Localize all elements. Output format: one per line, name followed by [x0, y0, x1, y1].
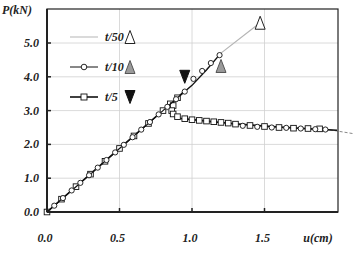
- series-t5-marker: [262, 124, 268, 130]
- legend-label-t-5: t/5: [105, 90, 118, 104]
- legend: t/50t/10t/5: [70, 30, 135, 104]
- series-t10-marker: [323, 127, 328, 132]
- axes: 0.01.02.03.04.05.00.00.51.01.5P(kN)u(cm): [2, 3, 338, 245]
- legend-t10-circle-icon: [81, 64, 87, 70]
- series-t5-marker: [218, 120, 224, 126]
- series-t10-marker: [95, 165, 100, 170]
- series-t10-marker: [284, 125, 289, 130]
- series-t5-marker: [204, 118, 210, 124]
- y-tick-label: 3.0: [23, 104, 39, 118]
- series-t10-marker: [208, 60, 213, 65]
- y-tick-label: 4.0: [23, 70, 39, 84]
- series-t10-marker: [130, 135, 135, 140]
- series-t5-marker: [276, 125, 282, 131]
- series-t10-marker: [313, 127, 318, 132]
- legend-t5-square-icon: [81, 94, 87, 100]
- series-t10-marker: [182, 89, 187, 94]
- y-tick-label: 2.0: [23, 137, 39, 151]
- legend-triangle-grey-icon: [125, 61, 135, 74]
- triangle-t50-open-icon: [255, 16, 265, 29]
- series-t10-marker: [240, 123, 245, 128]
- series-t5-marker: [211, 119, 217, 125]
- series-t10-marker: [113, 150, 118, 155]
- series-t10-marker: [217, 53, 222, 58]
- series-t10-marker: [86, 173, 91, 178]
- series-t5-marker: [233, 121, 239, 127]
- x-axis-label: u(cm): [303, 231, 332, 245]
- series-t5-marker: [247, 123, 253, 129]
- series-t10-marker: [139, 127, 144, 132]
- plot-series: [44, 16, 353, 215]
- legend-triangle-open-icon: [125, 31, 135, 44]
- x-tick-label: 0.0: [38, 231, 53, 245]
- series-t10-marker: [52, 203, 57, 208]
- legend-triangle-black-icon: [125, 91, 135, 104]
- x-tick-label: 1.5: [255, 231, 270, 245]
- series-t5-marker: [225, 120, 231, 126]
- series-t10-marker: [269, 125, 274, 130]
- series-t5-marker: [291, 125, 297, 131]
- series-t10-marker: [104, 157, 109, 162]
- series-t10-marker: [200, 68, 205, 73]
- series-t10-marker: [191, 76, 196, 81]
- y-tick-label: 5.0: [24, 36, 39, 50]
- x-tick-label: 1.0: [183, 231, 198, 245]
- series-t10-marker: [298, 126, 303, 131]
- series-t5-marker: [175, 114, 181, 120]
- series-t10-marker: [173, 97, 178, 102]
- y-tick-label: 1.0: [24, 171, 39, 185]
- y-axis-label: P(kN): [2, 3, 32, 17]
- series-t10-marker: [78, 180, 83, 185]
- series-t10-marker: [69, 188, 74, 193]
- grid-lines: [47, 9, 338, 212]
- series-t5-marker: [305, 126, 311, 132]
- chart: 0.01.02.03.04.05.00.00.51.01.5P(kN)u(cm)…: [0, 0, 358, 261]
- series-t10-marker: [156, 112, 161, 117]
- triangle-t10-grey-icon: [216, 59, 226, 72]
- series-t10-marker: [60, 195, 65, 200]
- legend-label-t-50: t/50: [105, 30, 124, 44]
- series-t10-marker: [165, 104, 170, 109]
- series-t5-marker: [182, 116, 188, 122]
- series-t10-marker: [121, 142, 126, 147]
- y-tick-label: 0.0: [24, 205, 39, 219]
- series-t10-marker: [147, 119, 152, 124]
- x-tick-label: 0.5: [110, 231, 125, 245]
- series-t5-marker: [189, 117, 195, 123]
- legend-label-t-10: t/10: [105, 60, 124, 74]
- series-t10-marker: [255, 124, 260, 129]
- series-t5-marker: [196, 118, 202, 124]
